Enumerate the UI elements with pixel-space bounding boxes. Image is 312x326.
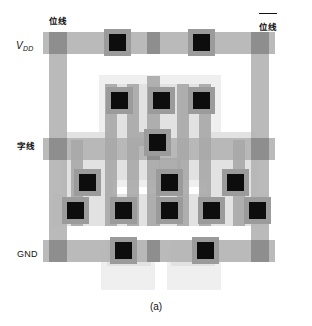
vdd-bitline-right-crossing bbox=[251, 32, 269, 54]
bit-line-label: 位线 bbox=[49, 17, 67, 26]
gnd-label: GND bbox=[17, 250, 38, 259]
gnd-center-poly-crossing bbox=[147, 240, 160, 262]
vdd-center-poly-crossing bbox=[147, 32, 160, 54]
gnd-bitline-left-crossing bbox=[49, 240, 67, 262]
cross-couple-node bbox=[149, 134, 166, 151]
sram-cell-layout bbox=[43, 28, 275, 290]
p-contact-mid bbox=[153, 92, 170, 109]
p-contact-right bbox=[193, 92, 210, 109]
vdd-contact-right bbox=[193, 34, 210, 51]
row-contact-1 bbox=[67, 202, 84, 219]
vdd-label: VDD bbox=[16, 41, 33, 52]
n-contact-left bbox=[79, 174, 96, 191]
wl-bitline-left-crossing bbox=[49, 138, 67, 160]
gnd-contact-left bbox=[115, 242, 132, 259]
row-contact-4 bbox=[203, 202, 220, 219]
gnd-contact-right bbox=[197, 242, 214, 259]
vdd-bitline-left-crossing bbox=[49, 32, 67, 54]
row-contact-3 bbox=[161, 202, 178, 219]
p-contact-left bbox=[111, 92, 128, 109]
figure-caption: (a) bbox=[0, 301, 312, 312]
gnd-bitline-right-crossing bbox=[251, 240, 269, 262]
row-contact-5 bbox=[249, 202, 266, 219]
n-contact-right bbox=[227, 174, 244, 191]
figure-panel: VDD 字线 GND 位线 位线 (a) bbox=[0, 0, 312, 326]
word-line-label: 字线 bbox=[17, 142, 35, 151]
vdd-label-subscript: DD bbox=[23, 45, 34, 52]
wl-bitline-right-crossing bbox=[251, 138, 269, 160]
n-contact-mid bbox=[161, 174, 178, 191]
vdd-contact-left bbox=[109, 34, 126, 51]
row-contact-2 bbox=[115, 202, 132, 219]
overline-bar bbox=[259, 13, 277, 14]
vdd-label-text: V bbox=[16, 40, 23, 51]
